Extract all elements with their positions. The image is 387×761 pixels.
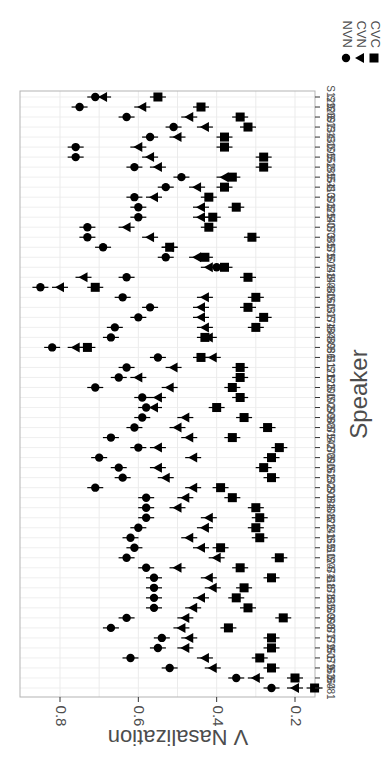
nvn-point xyxy=(122,363,130,371)
cvc-point xyxy=(236,393,245,402)
cvc-point xyxy=(240,413,249,422)
cvc-point xyxy=(204,193,213,202)
cvc-point xyxy=(200,253,209,262)
cvc-point xyxy=(267,633,276,642)
cvn-point xyxy=(79,272,88,282)
nvn-point xyxy=(107,624,115,632)
cvc-point xyxy=(279,613,288,622)
nvn-point xyxy=(232,674,240,682)
speaker-tick-label: S129 xyxy=(325,85,336,109)
nvn-point xyxy=(122,113,130,121)
cvc-point xyxy=(83,343,92,352)
nvn-point xyxy=(122,273,130,281)
nvn-point xyxy=(36,283,44,291)
cvn-point xyxy=(355,53,364,63)
nvn-point xyxy=(138,393,146,401)
cvc-point xyxy=(224,623,233,632)
nvn-point xyxy=(71,143,79,151)
cvc-point xyxy=(370,54,379,63)
nvn-point xyxy=(146,303,154,311)
cvn-point xyxy=(184,112,193,122)
cvc-point xyxy=(263,423,272,432)
cvc-point xyxy=(197,353,206,362)
cvc-point xyxy=(240,583,249,592)
nvn-point xyxy=(154,644,162,652)
cvc-point xyxy=(220,143,229,152)
cvc-point xyxy=(291,673,300,682)
cvn-point xyxy=(153,162,162,172)
cvc-point xyxy=(255,653,264,662)
cvc-point xyxy=(228,493,237,502)
cvc-point xyxy=(247,233,256,242)
cvn-point xyxy=(122,222,131,232)
cvn-point xyxy=(153,443,162,453)
cvc-point xyxy=(200,333,209,342)
speaker-axis-ticks: S081S164S163S079S151S179S077S098S109S135… xyxy=(315,85,336,700)
nvn-point xyxy=(165,664,173,672)
cvc-point xyxy=(275,443,284,452)
cvc-point xyxy=(259,163,268,172)
cvc-point xyxy=(197,103,206,112)
nvn-point xyxy=(91,383,99,391)
cvc-point xyxy=(259,153,268,162)
cvc-point xyxy=(251,323,260,332)
cvc-point xyxy=(236,113,245,122)
cvn-point xyxy=(71,342,80,352)
nvn-point xyxy=(71,153,79,161)
cvc-point xyxy=(251,503,260,512)
nvn-point xyxy=(162,253,170,261)
nvn-point xyxy=(118,473,126,481)
cvn-point xyxy=(145,232,154,242)
nvn-point xyxy=(83,233,91,241)
grid-lines xyxy=(20,91,315,697)
nvn-point xyxy=(150,574,158,582)
nvn-point xyxy=(150,604,158,612)
value-tick-label: 0.4 xyxy=(210,706,227,727)
cvn-point xyxy=(153,463,162,473)
cvc-point xyxy=(228,383,237,392)
cvn-point xyxy=(165,382,174,392)
nvn-point xyxy=(111,323,119,331)
nvn-point xyxy=(99,243,107,251)
cvc-point xyxy=(208,213,217,222)
cvc-point xyxy=(232,593,241,602)
cvn-point xyxy=(188,483,197,493)
value-axis-ticks: 0.20.40.60.8 xyxy=(53,697,305,726)
cvn-point xyxy=(196,302,205,312)
cvn-point xyxy=(196,212,205,222)
cvn-point xyxy=(184,533,193,543)
nvn-point xyxy=(115,463,123,471)
cvc-point xyxy=(267,453,276,462)
cvn-point xyxy=(196,312,205,322)
cvn-point xyxy=(204,262,213,272)
cvn-point xyxy=(161,473,170,483)
nvn-point xyxy=(158,634,166,642)
legend: NVNCVNCVC xyxy=(340,21,383,63)
cvc-point xyxy=(220,263,229,272)
speaker-axis-title: Speaker xyxy=(345,349,372,438)
nvn-point xyxy=(146,133,154,141)
nvn-point xyxy=(154,353,162,361)
nvn-point xyxy=(122,614,130,622)
cvc-point xyxy=(236,363,245,372)
cvc-point xyxy=(244,273,253,282)
cvn-point xyxy=(192,182,201,192)
nvn-point xyxy=(95,453,103,461)
cvc-point xyxy=(212,403,221,412)
cvn-point xyxy=(180,413,189,423)
cvc-point xyxy=(232,203,241,212)
cvc-point xyxy=(255,513,264,522)
nvn-point xyxy=(91,483,99,491)
cvn-point xyxy=(196,543,205,553)
nvn-point xyxy=(107,433,115,441)
cvc-point xyxy=(220,183,229,192)
cvc-point xyxy=(267,643,276,652)
cvc-point xyxy=(228,173,237,182)
legend-label: NVN xyxy=(340,21,355,48)
nasalization-chart: 0.20.40.60.8 S081S164S163S079S151S179S07… xyxy=(0,0,387,761)
cvc-point xyxy=(255,533,264,542)
nvn-point xyxy=(126,534,134,542)
cvc-point xyxy=(251,293,260,302)
cvc-point xyxy=(244,303,253,312)
value-tick-label: 0.6 xyxy=(131,706,148,727)
